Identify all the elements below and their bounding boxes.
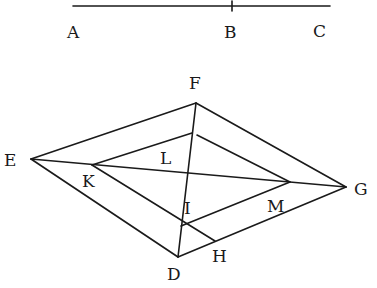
label-i: I bbox=[184, 198, 191, 218]
label-b: B bbox=[224, 22, 237, 42]
segment-abc bbox=[73, 1, 330, 11]
label-g: G bbox=[354, 179, 368, 199]
edge-de bbox=[31, 159, 178, 257]
label-a: A bbox=[66, 22, 80, 42]
geometry-diagram: A B C F E L K G I M H D bbox=[0, 0, 377, 288]
labels: A B C F E L K G I M H D bbox=[4, 21, 368, 284]
label-m: M bbox=[267, 196, 284, 216]
label-k: K bbox=[82, 171, 95, 191]
label-l: L bbox=[160, 148, 171, 168]
line-fd bbox=[178, 103, 196, 257]
edge-kh bbox=[92, 165, 215, 241]
label-h: H bbox=[212, 246, 227, 266]
label-d: D bbox=[167, 264, 181, 284]
edge-gd bbox=[178, 187, 346, 257]
outer-figure bbox=[31, 103, 346, 257]
label-f: F bbox=[189, 73, 201, 93]
edge-kt bbox=[92, 133, 192, 165]
label-c: C bbox=[313, 21, 326, 41]
label-e: E bbox=[4, 150, 16, 170]
